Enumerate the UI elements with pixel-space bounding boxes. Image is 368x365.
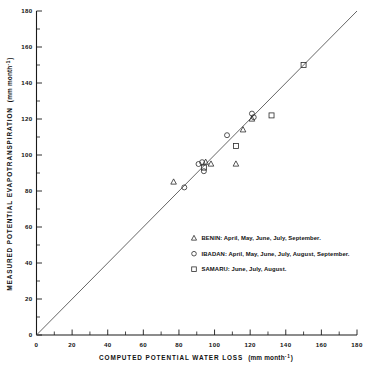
legend-entry: SAMARU: June, July, August. [192, 266, 287, 272]
y-tick-label: 180 [21, 7, 33, 14]
data-marker-triangle [171, 179, 177, 184]
series-benin [171, 116, 255, 184]
x-tick-label: 0 [35, 341, 39, 348]
data-point-markers [171, 63, 306, 190]
x-tick-label: 120 [244, 341, 256, 348]
one-to-one-reference-line [37, 11, 358, 335]
y-tick-label: 40 [25, 259, 33, 266]
x-tick-label: 100 [209, 341, 221, 348]
x-tick-label: 80 [175, 341, 183, 348]
legend-entry-label: BENIN: April, May, June, July, September… [202, 235, 322, 241]
data-marker-square [233, 144, 238, 149]
y-tick-label: 140 [21, 79, 33, 86]
scatter-chart-figure: 020406080100120140160180 020406080100120… [0, 0, 368, 365]
x-axis-ticks [37, 330, 358, 336]
data-marker-triangle [240, 127, 246, 132]
y-tick-label: 60 [25, 223, 33, 230]
y-axis-title: MEASURED POTENTIAL EVAPOTRANSPIRATION(mm… [6, 57, 14, 290]
x-tick-label: 60 [140, 341, 148, 348]
x-tick-label: 140 [280, 341, 292, 348]
y-tick-label: 80 [25, 187, 33, 194]
legend-entry: IBADAN: April, May, June, July, August, … [192, 251, 350, 257]
data-marker-triangle [191, 235, 196, 240]
y-axis-tick-labels: 020406080100120140160180 [21, 7, 33, 338]
x-axis-title-group: COMPUTED POTENTIAL WATER LOSS(mm month-1… [99, 354, 293, 362]
y-tick-label: 0 [29, 331, 33, 338]
legend-entry: BENIN: April, May, June, July, September… [191, 235, 321, 241]
data-marker-triangle [208, 161, 214, 166]
y-axis-title-group: MEASURED POTENTIAL EVAPOTRANSPIRATION(mm… [6, 57, 14, 290]
data-marker-square [192, 267, 197, 272]
legend-entry-label: IBADAN: April, May, June, July, August, … [202, 251, 350, 257]
y-tick-label: 100 [21, 151, 33, 158]
x-tick-label: 40 [104, 341, 112, 348]
x-axis-tick-labels: 020406080100120140160180 [35, 341, 363, 348]
legend-entry-label: SAMARU: June, July, August. [202, 266, 287, 272]
x-tick-label: 20 [68, 341, 76, 348]
data-marker-triangle [233, 161, 239, 166]
x-tick-label: 160 [316, 341, 328, 348]
y-tick-label: 120 [21, 115, 33, 122]
x-tick-label: 180 [351, 341, 363, 348]
data-marker-circle [201, 169, 206, 174]
data-marker-square [269, 113, 274, 118]
data-marker-circle [192, 251, 197, 256]
y-tick-label: 160 [21, 43, 33, 50]
x-axis-title: COMPUTED POTENTIAL WATER LOSS(mm month-1… [99, 354, 293, 362]
y-axis-ticks [37, 11, 43, 335]
chart-canvas: 020406080100120140160180 020406080100120… [0, 0, 368, 365]
legend: BENIN: April, May, June, July, September… [191, 235, 349, 272]
data-marker-circle [225, 133, 230, 138]
y-tick-label: 20 [25, 295, 33, 302]
